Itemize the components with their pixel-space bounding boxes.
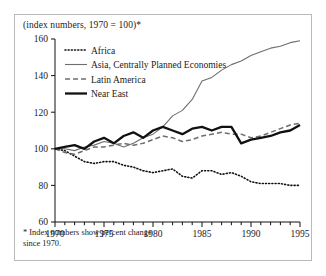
x-tick-label: 1990: [242, 229, 261, 239]
legend-label-0: Africa: [91, 46, 116, 56]
y-tick-label: 160: [34, 34, 49, 44]
x-tick-label: 1995: [291, 229, 310, 239]
chart-footnote: * Index numbers show percent change sinc…: [23, 228, 152, 249]
y-tick-label: 100: [34, 144, 49, 154]
y-tick-label: 80: [39, 181, 49, 191]
series-line-2: [55, 123, 300, 154]
y-tick-label: 120: [34, 108, 49, 118]
legend-label-1: Asia, Centrally Planned Economies: [91, 60, 226, 70]
line-chart: 6080100120140160197019751980198519901995…: [15, 15, 313, 262]
y-tick-label: 60: [39, 217, 49, 227]
figure-frame: (index numbers, 1970 = 100)* 60801001201…: [14, 14, 312, 261]
series-line-0: [55, 149, 300, 186]
chart-plot-area: 6080100120140160197019751980198519901995…: [15, 15, 313, 262]
legend-label-2: Latin America: [91, 75, 146, 85]
x-tick-label: 1985: [193, 229, 212, 239]
legend-label-3: Near East: [91, 89, 129, 99]
y-tick-label: 140: [34, 71, 49, 81]
